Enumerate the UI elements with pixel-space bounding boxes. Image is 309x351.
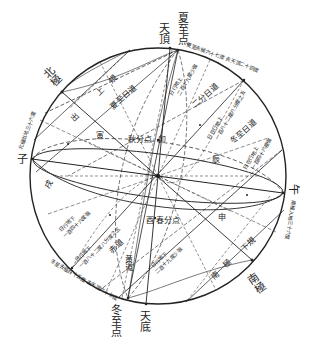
north-pole-label: 北極 <box>39 63 64 88</box>
celestial-sphere-diagram: 天頂 夏至点 北極 子 午 冬至点 天底 南極 上 規 出 夏至日道 二分日道 … <box>0 0 309 351</box>
spring-equinox-label: 春分点 <box>156 215 180 225</box>
summer-solstice-point <box>177 49 180 52</box>
svg-text:出: 出 <box>68 110 81 123</box>
north-pole-circle <box>34 50 130 140</box>
south-pole-label: 南極 <box>244 270 268 296</box>
wu-label: 午 <box>287 184 300 195</box>
yin-label: 寅 <box>96 130 104 140</box>
zenith-point <box>169 47 172 50</box>
wu-point <box>282 192 285 195</box>
mao-label: 卯 <box>158 135 166 144</box>
south-pole-point <box>251 259 254 262</box>
north-upper-label: 上 <box>94 86 106 98</box>
zenith-label: 天頂 <box>157 22 171 45</box>
svg-text:規: 規 <box>106 72 119 85</box>
autumn-equinox-label: 秋分点 <box>128 134 152 144</box>
nadir-label: 天底 <box>138 310 152 332</box>
chen-label: 辰 <box>212 155 220 164</box>
arc-right-label: 南極入地三十六度 <box>283 200 298 241</box>
zi-point <box>31 158 34 161</box>
nadir-point <box>145 303 148 306</box>
center-point <box>156 174 160 178</box>
winter-sun-path-label: 冬至日道 <box>227 117 257 146</box>
north-pole-point <box>61 91 64 94</box>
xu-label: 戌 <box>42 178 55 190</box>
ecliptic-label: 黄道 <box>124 254 133 272</box>
winter-solstice-point <box>127 297 130 300</box>
shen-label: 申 <box>218 212 226 222</box>
zi-label: 子 <box>17 153 28 166</box>
winter-solstice-label: 冬至点 <box>109 303 123 338</box>
you-label: 酉 <box>146 216 154 225</box>
